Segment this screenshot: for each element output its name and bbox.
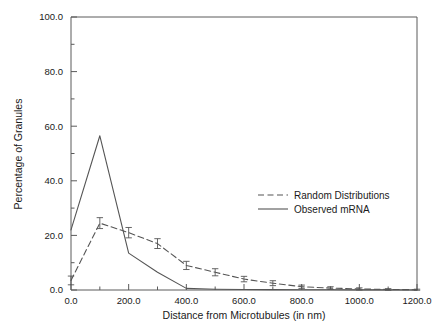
x-tick-label-400: 400.0 bbox=[174, 295, 198, 306]
y-tick-label-20: 20.0 bbox=[45, 230, 64, 241]
x-tick-label-0: 0.0 bbox=[64, 295, 77, 306]
legend-label-random-distributions: Random Distributions bbox=[294, 190, 390, 201]
y-tick-label-40: 40.0 bbox=[45, 175, 64, 186]
chart-container: 0.020.040.060.080.0100.0 0.0200.0400.060… bbox=[0, 0, 446, 332]
x-tick-label-200: 200.0 bbox=[117, 295, 141, 306]
x-tick-label-600: 600.0 bbox=[232, 295, 256, 306]
distribution-line-chart: 0.020.040.060.080.0100.0 0.0200.0400.060… bbox=[0, 0, 446, 332]
y-axis-title: Percentage of Granules bbox=[12, 99, 24, 210]
chart-background bbox=[0, 0, 446, 332]
y-tick-label-60: 60.0 bbox=[45, 121, 64, 132]
x-tick-label-1000: 1000.0 bbox=[345, 295, 374, 306]
y-tick-label-0: 0.0 bbox=[50, 284, 63, 295]
x-axis-title: Distance from Microtubules (in nm) bbox=[163, 309, 326, 321]
legend-label-observed-mrna: Observed mRNA bbox=[294, 204, 370, 215]
x-tick-label-800: 800.0 bbox=[290, 295, 314, 306]
x-tick-label-1200: 1200.0 bbox=[402, 295, 431, 306]
y-tick-label-80: 80.0 bbox=[45, 66, 64, 77]
y-tick-label-100: 100.0 bbox=[39, 11, 63, 22]
